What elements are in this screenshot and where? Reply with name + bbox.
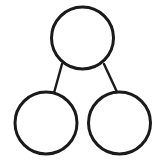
whole-circle[interactable]	[52, 7, 114, 69]
part-right-circle[interactable]	[89, 92, 151, 154]
part-left-circle[interactable]	[15, 92, 77, 154]
connector-whole-to-part-right	[104, 64, 117, 92]
number-bond-diagram	[0, 0, 164, 168]
connector-whole-to-part-left	[54, 64, 62, 93]
diagram-canvas	[0, 0, 164, 168]
